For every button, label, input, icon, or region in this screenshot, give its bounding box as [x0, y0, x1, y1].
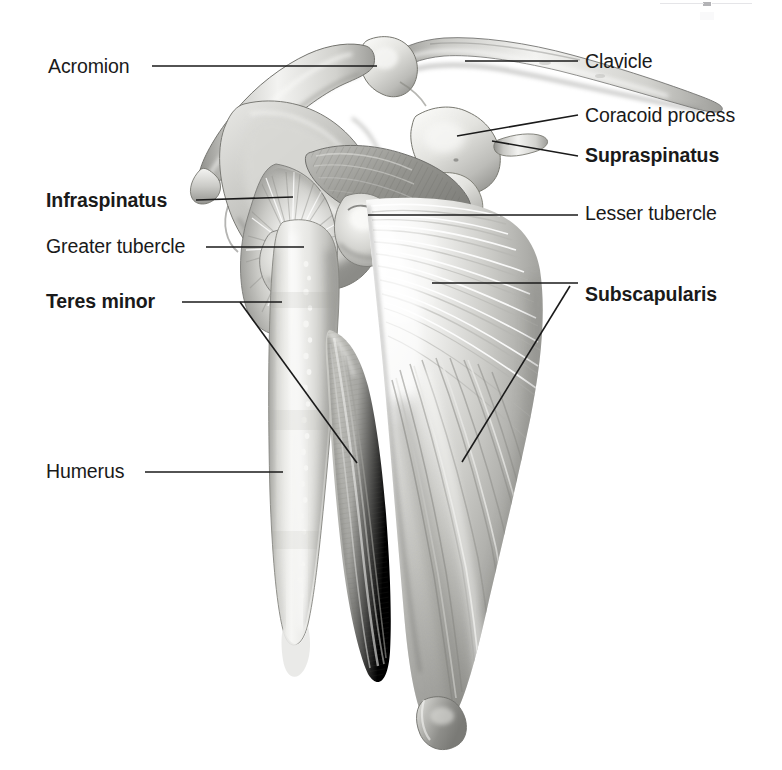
scan-artifact — [660, 2, 752, 20]
clavicle-bone — [382, 38, 722, 112]
label-infraspinatus: Infraspinatus — [46, 191, 167, 211]
label-greater-tubercle: Greater tubercle — [46, 237, 185, 257]
label-humerus: Humerus — [46, 462, 124, 482]
humerus-bone — [269, 220, 339, 677]
label-clavicle: Clavicle — [585, 52, 652, 72]
label-acromion: Acromion — [48, 57, 130, 77]
label-lesser-tubercle: Lesser tubercle — [585, 204, 717, 224]
subscapularis-muscle — [366, 198, 543, 750]
label-subscapularis: Subscapularis — [585, 285, 717, 305]
label-supraspinatus: Supraspinatus — [585, 146, 719, 166]
anatomy-figure-canvas: AcromionClavicleCoracoid processSupraspi… — [0, 0, 782, 770]
label-teres-minor: Teres minor — [46, 292, 155, 312]
label-coracoid-process: Coracoid process — [585, 106, 735, 126]
